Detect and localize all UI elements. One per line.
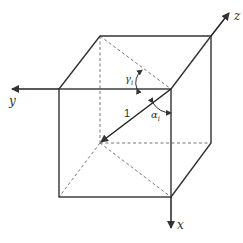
diagonal-bottom-face bbox=[100, 143, 171, 197]
axes bbox=[12, 13, 229, 228]
gamma-angle-arc bbox=[136, 70, 142, 89]
alpha-label: αi bbox=[151, 109, 160, 123]
hidden-edge-bottom-left bbox=[59, 143, 100, 197]
cube-diagram: y z x 1 γi αi bbox=[0, 0, 243, 243]
vector-magnitude-label: 1 bbox=[124, 107, 130, 119]
top-right-edge bbox=[171, 36, 211, 89]
gamma-label: γi bbox=[125, 73, 133, 87]
x-axis-label: x bbox=[177, 218, 184, 232]
gamma-subscript: i bbox=[131, 79, 133, 87]
alpha-subscript: i bbox=[158, 115, 160, 123]
y-axis-label: y bbox=[8, 94, 16, 108]
z-axis-arrow bbox=[211, 13, 229, 36]
z-axis-label: z bbox=[233, 9, 241, 23]
unit-vector-arrow bbox=[101, 89, 171, 142]
